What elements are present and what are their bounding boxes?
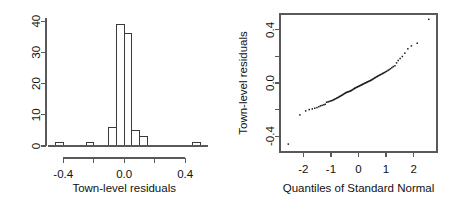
histogram-bar bbox=[109, 127, 117, 146]
histogram-y-tick-label: 20 bbox=[30, 77, 42, 90]
qq-x-ticks bbox=[303, 152, 413, 157]
histogram-y-tick-labels: 010203040 bbox=[30, 15, 42, 149]
qq-data-point bbox=[321, 105, 323, 107]
qq-y-tick-label: 0.0 bbox=[264, 75, 276, 91]
histogram-y-tick-label: 0 bbox=[30, 143, 42, 149]
qq-data-point bbox=[399, 58, 401, 60]
qq-data-point bbox=[328, 101, 330, 103]
histogram-panel: 010203040 -0.40.00.4 Town-level residual… bbox=[0, 0, 227, 212]
histogram-bar bbox=[117, 24, 125, 146]
qq-data-point bbox=[314, 108, 316, 110]
qq-y-tick-label: 0.4 bbox=[264, 21, 276, 38]
histogram-bar bbox=[124, 34, 132, 146]
qq-data-point bbox=[402, 56, 404, 58]
qq-plot-panel: -0.40.00.4 -2-1012 Town-level residuals … bbox=[227, 0, 453, 212]
qq-data-point bbox=[288, 143, 290, 145]
figure-root: 010203040 -0.40.00.4 Town-level residual… bbox=[0, 0, 453, 212]
histogram-y-tick-label: 40 bbox=[30, 15, 42, 28]
qq-x-axis-label: Quantiles of Standard Normal bbox=[283, 182, 435, 194]
qq-y-axis-label: Town-level residuals bbox=[237, 31, 249, 135]
qq-data-point bbox=[396, 62, 398, 64]
qq-data-point bbox=[320, 105, 322, 107]
qq-data-point bbox=[308, 109, 310, 111]
qq-data-point bbox=[318, 106, 320, 108]
qq-data-point bbox=[323, 104, 325, 106]
histogram-x-tick-labels: -0.40.00.4 bbox=[53, 168, 193, 180]
qq-x-tick-label: 1 bbox=[383, 163, 389, 175]
histogram-x-tick-label: 0.0 bbox=[116, 168, 132, 180]
qq-data-point bbox=[416, 42, 418, 44]
qq-data-point bbox=[428, 19, 430, 21]
qq-data-point bbox=[394, 65, 396, 67]
qq-data-point bbox=[324, 104, 326, 106]
qq-data-point bbox=[404, 52, 406, 54]
histogram-bar bbox=[132, 130, 140, 146]
histogram-x-tick-label: -0.4 bbox=[53, 168, 73, 180]
qq-plot-points bbox=[288, 19, 430, 145]
qq-x-tick-label: -2 bbox=[298, 163, 308, 175]
qq-data-point bbox=[299, 114, 301, 116]
histogram-x-ticks bbox=[63, 158, 185, 163]
histogram-svg: 010203040 -0.40.00.4 Town-level residual… bbox=[0, 0, 227, 212]
qq-data-point bbox=[390, 68, 392, 70]
histogram-bar bbox=[139, 137, 147, 146]
qq-x-tick-labels: -2-1012 bbox=[298, 163, 416, 175]
histogram-y-tick-label: 30 bbox=[30, 46, 42, 59]
histogram-bars bbox=[56, 24, 201, 146]
histogram-y-tick-label: 10 bbox=[30, 108, 42, 121]
qq-y-tick-label: -0.4 bbox=[264, 126, 276, 146]
qq-plot-frame bbox=[280, 14, 437, 152]
qq-plot-svg: -0.40.00.4 -2-1012 Town-level residuals … bbox=[227, 0, 453, 212]
qq-data-point bbox=[312, 108, 314, 110]
histogram-x-axis-label: Town-level residuals bbox=[72, 182, 176, 194]
qq-data-point bbox=[407, 48, 409, 50]
qq-data-point bbox=[316, 107, 318, 109]
qq-data-point bbox=[326, 102, 328, 104]
qq-x-tick-label: 2 bbox=[410, 163, 416, 175]
qq-data-point bbox=[411, 45, 413, 47]
histogram-x-tick-label: 0.4 bbox=[177, 168, 194, 180]
qq-data-point bbox=[393, 66, 395, 68]
qq-x-tick-label: 0 bbox=[355, 163, 361, 175]
qq-data-point bbox=[388, 69, 390, 71]
qq-data-point bbox=[391, 67, 393, 69]
qq-data-point bbox=[386, 70, 388, 72]
qq-y-tick-labels: -0.40.00.4 bbox=[264, 21, 276, 146]
qq-data-point bbox=[397, 60, 399, 62]
qq-data-point bbox=[305, 110, 307, 112]
qq-x-tick-label: -1 bbox=[326, 163, 336, 175]
